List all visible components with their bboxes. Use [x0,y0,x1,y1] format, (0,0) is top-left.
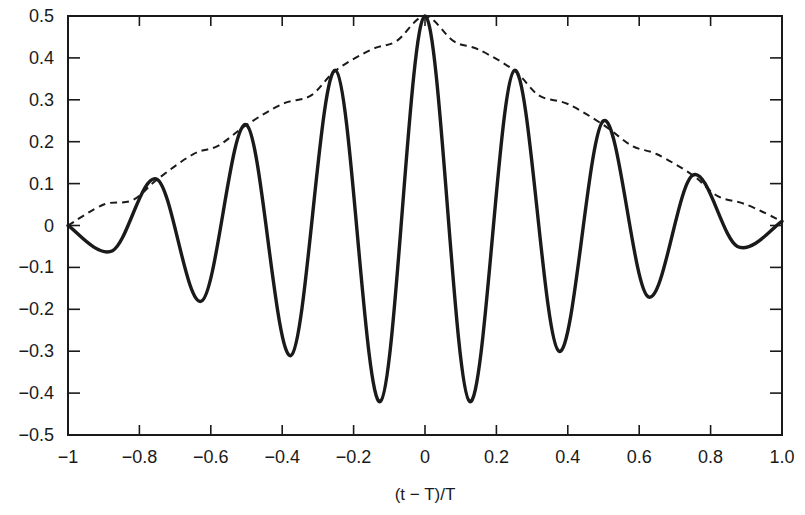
x-tick-label: −0.4 [264,447,300,467]
x-tick-label: 1.0 [769,447,794,467]
x-tick-label: −1 [58,447,79,467]
y-tick-label: 0.1 [29,174,54,194]
y-tick-label: −0.4 [18,383,54,403]
x-axis: −1−0.8−0.6−0.4−0.200.20.40.60.81.0 [58,16,795,467]
y-tick-label: −0.5 [18,425,54,445]
y-tick-label: 0 [44,216,54,236]
y-tick-label: −0.3 [18,341,54,361]
x-tick-label: 0.6 [627,447,652,467]
x-tick-label: 0.2 [484,447,509,467]
x-tick-label: 0.4 [555,447,580,467]
signal-line [68,16,782,402]
y-tick-label: 0.3 [29,90,54,110]
y-tick-label: −0.2 [18,299,54,319]
x-tick-label: 0 [420,447,430,467]
chart: −1−0.8−0.6−0.4−0.200.20.40.60.81.0 0.50.… [0,0,805,515]
y-tick-label: 0.4 [29,48,54,68]
y-tick-label: −0.1 [18,257,54,277]
x-tick-label: −0.8 [122,447,158,467]
x-axis-label: (t − T)/T [395,485,456,504]
series-layer [68,16,782,402]
y-tick-label: 0.5 [29,6,54,26]
x-tick-label: −0.6 [193,447,229,467]
y-tick-label: 0.2 [29,132,54,152]
x-tick-label: −0.2 [336,447,372,467]
envelope-line [68,16,782,226]
x-tick-label: 0.8 [698,447,723,467]
